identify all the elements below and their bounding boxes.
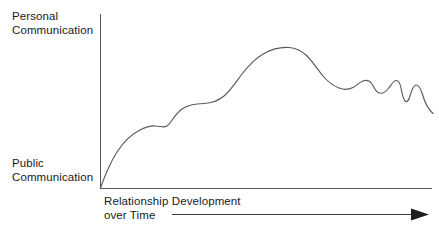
y-axis-bottom-label: Public Communication <box>12 156 93 184</box>
chart-figure: Personal Communication Public Communicat… <box>0 0 439 234</box>
x-axis-label: Relationship Development over Time <box>104 194 241 222</box>
relationship-curve <box>101 47 434 188</box>
axes-group <box>100 14 432 189</box>
y-axis-top-label: Personal Communication <box>12 9 93 37</box>
x-axis-arrow-head <box>411 209 429 221</box>
